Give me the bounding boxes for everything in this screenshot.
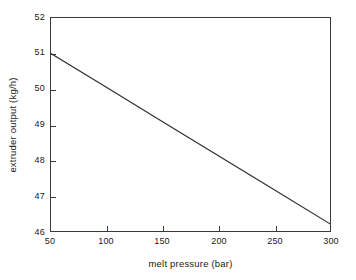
y-tick-label: 52 — [5, 13, 45, 22]
x-tick-label: 150 — [142, 237, 182, 246]
y-tick-label: 46 — [5, 228, 45, 237]
y-tick-label: 48 — [5, 156, 45, 165]
y-tick-label: 47 — [5, 192, 45, 201]
data-line-svg — [51, 18, 330, 231]
x-tick-label: 100 — [86, 237, 126, 246]
x-tick-label: 250 — [255, 237, 295, 246]
y-tick-label: 51 — [5, 48, 45, 57]
x-tick-label: 300 — [311, 237, 351, 246]
plot-area — [50, 17, 331, 232]
y-tick-label: 49 — [5, 120, 45, 129]
x-axis-title: melt pressure (bar) — [50, 258, 331, 269]
y-tick-label: 50 — [5, 84, 45, 93]
x-tick-label: 200 — [199, 237, 239, 246]
series-line-extruder-output — [51, 53, 330, 223]
chart-figure: extruder output (kg/h) 52 51 50 49 48 47… — [0, 0, 356, 280]
x-tick-label: 50 — [30, 237, 70, 246]
